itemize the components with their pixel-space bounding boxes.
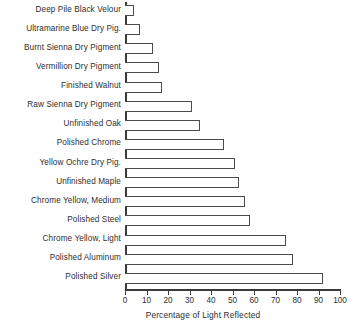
x-axis-tick <box>190 290 191 295</box>
x-axis-tick <box>211 290 212 295</box>
bar-row <box>125 174 340 192</box>
category-label: Vermillion Dry Pigment <box>0 62 121 72</box>
bar-series <box>125 2 340 289</box>
x-axis-tick-label: 0 <box>123 296 128 306</box>
x-axis-tick <box>168 290 169 295</box>
bar <box>125 24 140 35</box>
category-label: Raw Sienna Dry Pigment <box>0 100 121 110</box>
bar <box>125 254 293 265</box>
bar <box>125 120 200 131</box>
category-label: Yellow Ochre Dry Pig. <box>0 158 121 168</box>
x-axis-tick-label: 100 <box>333 296 347 306</box>
category-label: Polished Aluminum <box>0 253 121 263</box>
x-axis-title: Percentage of Light Reflected <box>0 310 354 320</box>
bar-row <box>125 155 340 173</box>
x-axis-tick-label: 80 <box>292 296 301 306</box>
category-label: Chrome Yellow, Light <box>0 234 121 244</box>
bar <box>125 196 245 207</box>
x-axis-title-text: Percentage of Light Reflected <box>146 310 261 320</box>
bar <box>125 235 286 246</box>
category-label: Finished Walnut <box>0 81 121 91</box>
x-axis-tick-labels: 0102030405060708090100 <box>0 296 354 308</box>
bar-row <box>125 79 340 97</box>
plot-area <box>125 2 340 289</box>
category-label: Ultramarine Blue Dry Pig. <box>0 24 121 34</box>
bar-row <box>125 212 340 230</box>
x-axis-tick <box>233 290 234 295</box>
bar <box>125 5 134 16</box>
category-label: Unfinished Maple <box>0 177 121 187</box>
bar <box>125 62 159 73</box>
bar-row <box>125 251 340 269</box>
bar-row <box>125 21 340 39</box>
x-axis-tick <box>147 290 148 295</box>
bar-row <box>125 59 340 77</box>
category-label: Chrome Yellow, Medium <box>0 196 121 206</box>
bar-row <box>125 98 340 116</box>
bar <box>125 273 323 284</box>
x-axis-tick-label: 60 <box>249 296 258 306</box>
category-axis-labels: Deep Pile Black VelourUltramarine Blue D… <box>0 2 121 289</box>
bar <box>125 82 162 93</box>
x-axis-tick <box>276 290 277 295</box>
bar <box>125 177 239 188</box>
category-label: Polished Silver <box>0 272 121 282</box>
bar-row <box>125 2 340 20</box>
x-axis-tick-label: 30 <box>185 296 194 306</box>
bar <box>125 215 250 226</box>
x-axis-tick <box>319 290 320 295</box>
category-label: Polished Chrome <box>0 138 121 148</box>
x-axis-tick-label: 90 <box>314 296 323 306</box>
bar-row <box>125 136 340 154</box>
x-axis-tick-label: 20 <box>163 296 172 306</box>
bar <box>125 158 235 169</box>
bar-row <box>125 193 340 211</box>
x-axis-tick <box>297 290 298 295</box>
bar-row <box>125 232 340 250</box>
x-axis-tick <box>254 290 255 295</box>
x-axis-tick-label: 10 <box>142 296 151 306</box>
category-label: Unfinished Oak <box>0 119 121 129</box>
bar-row <box>125 270 340 288</box>
x-axis-tick <box>340 290 341 295</box>
x-axis-tick-label: 70 <box>271 296 280 306</box>
reflectance-bar-chart: Deep Pile Black VelourUltramarine Blue D… <box>0 0 354 336</box>
x-axis-tick-label: 50 <box>228 296 237 306</box>
category-label: Polished Steel <box>0 215 121 225</box>
bar <box>125 139 224 150</box>
x-axis-tick <box>125 290 126 295</box>
category-label: Burnt Sienna Dry Pigment <box>0 43 121 53</box>
x-axis-tick-label: 40 <box>206 296 215 306</box>
bar-row <box>125 117 340 135</box>
bar-row <box>125 40 340 58</box>
bar <box>125 101 192 112</box>
bar <box>125 43 153 54</box>
category-label: Deep Pile Black Velour <box>0 5 121 15</box>
